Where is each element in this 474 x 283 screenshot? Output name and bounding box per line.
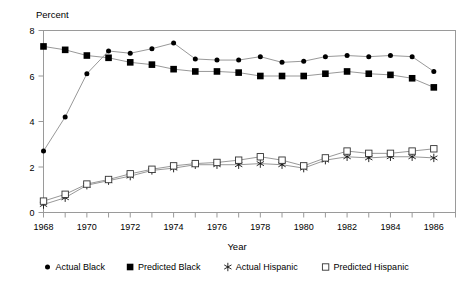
legend-marker-filled-circle-icon — [45, 265, 50, 270]
data-point — [84, 181, 90, 187]
data-point — [105, 55, 112, 62]
data-point — [171, 41, 176, 46]
data-point — [431, 84, 438, 91]
data-point — [40, 198, 46, 204]
data-point — [410, 54, 415, 59]
data-point — [387, 150, 393, 156]
data-point — [106, 48, 111, 53]
data-point — [193, 56, 198, 61]
y-tick-label: 6 — [29, 72, 34, 82]
data-point — [40, 43, 47, 50]
legend-marker-open-square-icon — [322, 264, 328, 270]
x-tick-label: 1980 — [294, 222, 314, 232]
data-point — [280, 60, 285, 65]
y-tick-label: 4 — [29, 117, 34, 127]
data-point — [127, 59, 134, 66]
legend-item-actual-hispanic[interactable]: Actual Hispanic — [224, 262, 298, 272]
data-point — [62, 47, 69, 54]
x-tick-label: 1968 — [33, 222, 53, 232]
data-point — [300, 73, 307, 80]
y-axis-ticks: 02468 — [29, 26, 43, 218]
percent-by-year-line-chart: Percent 02468 19681970197219741976197819… — [0, 0, 474, 283]
data-point — [41, 149, 46, 154]
series-layer — [40, 41, 438, 209]
data-point — [236, 58, 241, 63]
x-tick-label: 1970 — [77, 222, 97, 232]
data-point — [345, 53, 350, 58]
y-tick-label: 8 — [29, 26, 34, 36]
data-point — [431, 69, 436, 74]
data-point — [366, 150, 372, 156]
data-point — [63, 114, 68, 119]
data-point — [409, 148, 415, 154]
data-point — [105, 176, 111, 182]
data-point — [149, 61, 156, 68]
legend-marker-star-icon — [224, 263, 231, 271]
x-tick-label: 1972 — [120, 222, 140, 232]
data-point — [214, 68, 221, 75]
data-point — [301, 163, 307, 169]
data-point — [388, 53, 393, 58]
data-point — [214, 58, 219, 63]
data-point — [257, 73, 264, 80]
legend-item-actual-black[interactable]: Actual Black — [45, 262, 106, 272]
legend-label: Predicted Hispanic — [334, 262, 410, 272]
data-point — [84, 71, 89, 76]
data-point — [170, 66, 177, 73]
data-point — [344, 68, 351, 75]
data-point — [279, 157, 285, 163]
series-line — [44, 46, 434, 87]
y-tick-label: 0 — [29, 208, 34, 218]
data-point — [192, 68, 199, 75]
x-tick-label: 1982 — [337, 222, 357, 232]
x-tick-label: 1976 — [207, 222, 227, 232]
data-point — [279, 73, 286, 80]
data-point — [127, 171, 133, 177]
data-point — [192, 160, 198, 166]
data-point — [431, 146, 437, 152]
legend-label: Predicted Black — [138, 262, 201, 272]
data-point — [235, 69, 242, 76]
legend-marker-filled-square-icon — [127, 264, 134, 271]
data-point — [365, 70, 372, 77]
x-tick-label: 1986 — [424, 222, 444, 232]
data-point — [128, 51, 133, 56]
x-tick-label: 1978 — [250, 222, 270, 232]
series-actual-black — [41, 41, 436, 154]
chart-container: Percent 02468 19681970197219741976197819… — [0, 0, 474, 283]
data-point — [149, 46, 154, 51]
data-point — [149, 166, 155, 172]
data-point — [257, 154, 263, 160]
data-point — [301, 59, 306, 64]
series-predicted-black — [40, 43, 437, 91]
data-point — [409, 75, 416, 82]
legend-item-predicted-black[interactable]: Predicted Black — [127, 262, 201, 272]
data-point — [323, 54, 328, 59]
x-tick-label: 1984 — [380, 222, 400, 232]
data-point — [366, 54, 371, 59]
y-tick-label: 2 — [29, 163, 34, 173]
legend-label: Actual Hispanic — [236, 262, 299, 272]
data-point — [344, 148, 350, 154]
data-point — [84, 52, 91, 59]
x-axis-ticks: 1968197019721974197619781980198219841986 — [33, 213, 455, 232]
x-tick-label: 1974 — [164, 222, 184, 232]
x-axis-title: Year — [227, 241, 246, 252]
data-point — [214, 159, 220, 165]
series-predicted-hispanic — [40, 146, 437, 205]
chart-legend: Actual BlackPredicted BlackActual Hispan… — [45, 262, 409, 272]
data-point — [258, 54, 263, 59]
data-point — [62, 191, 68, 197]
data-point — [322, 155, 328, 161]
legend-label: Actual Black — [56, 262, 106, 272]
legend-item-predicted-hispanic[interactable]: Predicted Hispanic — [322, 262, 409, 272]
data-point — [387, 72, 394, 79]
y-axis-title: Percent — [36, 9, 69, 20]
data-point — [170, 163, 176, 169]
data-point — [322, 70, 329, 77]
data-point — [235, 157, 241, 163]
